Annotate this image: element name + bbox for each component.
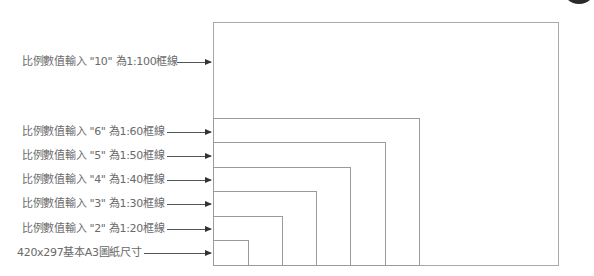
arrow-scale-50-icon xyxy=(167,156,211,157)
corner-decoration xyxy=(562,0,594,4)
label-a3-base: 420x297基本A3圖紙尺寸 xyxy=(17,246,142,260)
arrow-scale-40-icon xyxy=(167,180,211,181)
frame-a3 xyxy=(213,240,249,266)
label-scale-20: 比例數值輸入 "2" 為1:20框線 xyxy=(22,222,164,236)
label-scale-100: 比例數值輸入 "10" 為1:100框線 xyxy=(22,55,178,69)
arrow-scale-100-icon xyxy=(177,62,211,63)
label-scale-50: 比例數值輸入 "5" 為1:50框線 xyxy=(22,149,164,163)
arrow-scale-30-icon xyxy=(167,204,211,205)
label-scale-40: 比例數值輸入 "4" 為1:40框線 xyxy=(22,173,164,187)
label-scale-30: 比例數值輸入 "3" 為1:30框線 xyxy=(22,197,164,211)
arrow-scale-20-icon xyxy=(167,229,211,230)
arrow-a3-base-icon xyxy=(144,253,211,254)
label-scale-60: 比例數值輸入 "6" 為1:60框線 xyxy=(22,125,164,139)
arrow-scale-60-icon xyxy=(167,132,211,133)
